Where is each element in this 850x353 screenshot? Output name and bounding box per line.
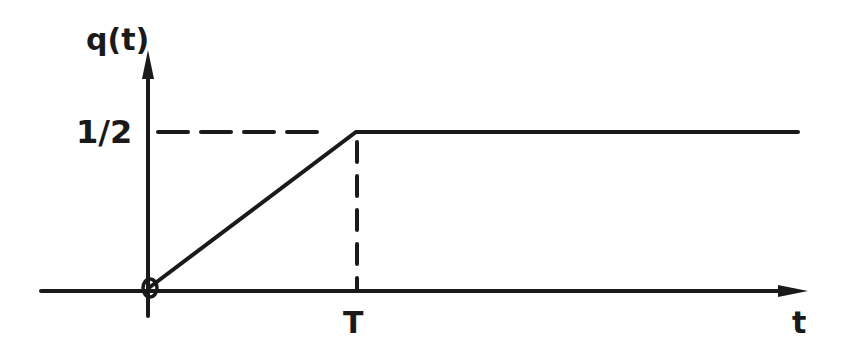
diagram-canvas: q(t) 1/2 T t: [0, 0, 850, 353]
function-curve-q: [150, 132, 798, 287]
y-level-label: 1/2: [76, 113, 132, 151]
x-mark-label: T: [343, 305, 364, 340]
t-axis-arrowhead-icon: [778, 285, 808, 297]
y-axis-label: q(t): [86, 22, 149, 57]
x-axis-label: t: [792, 305, 806, 340]
